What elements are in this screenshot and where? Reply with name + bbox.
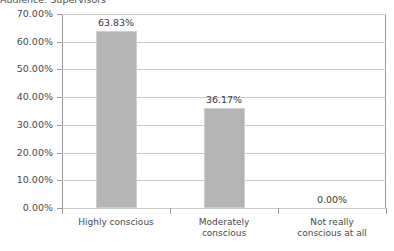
y-axis-tick (57, 180, 62, 181)
y-axis-tick-label: 10.00% (0, 175, 53, 185)
x-axis-tick (386, 208, 387, 214)
y-axis-tick (57, 153, 62, 154)
x-axis-category-label: Highly conscious (62, 217, 170, 228)
y-axis-tick (57, 125, 62, 126)
y-axis-tick-label: 30.00% (0, 120, 53, 130)
y-axis-tick-label: 0.00% (0, 203, 53, 213)
y-axis-tick-label: 20.00% (0, 148, 53, 158)
plot-right-border (385, 14, 386, 208)
y-axis-tick (57, 69, 62, 70)
gridline (62, 208, 386, 209)
x-axis-tick (62, 208, 63, 214)
x-axis-tick (170, 208, 171, 214)
gridline (62, 14, 386, 15)
y-axis-tick-label: 50.00% (0, 64, 53, 74)
x-axis-category-label-line: Moderately (170, 217, 278, 228)
y-axis-tick-label: 70.00% (0, 9, 53, 19)
y-axis-tick (57, 97, 62, 98)
x-axis-category-label: Not reallyconscious at all (278, 217, 386, 239)
y-axis-tick-label: 40.00% (0, 92, 53, 102)
chart-title: Audience: Supervisors (0, 0, 300, 7)
x-axis-category-label-line: Highly conscious (62, 217, 170, 228)
bar-chart: Audience: Supervisors 0.00%10.00%20.00%3… (0, 0, 394, 251)
y-axis-tick-label: 60.00% (0, 37, 53, 47)
x-axis-category-label-line: Not really (278, 217, 386, 228)
x-axis-category-label-line: conscious at all (278, 228, 386, 239)
plot-area (62, 14, 386, 208)
bar-value-label: 63.83% (76, 17, 156, 28)
x-axis-category-label-line: conscious (170, 228, 278, 239)
y-axis-tick (57, 42, 62, 43)
x-axis-category-label: Moderatelyconscious (170, 217, 278, 239)
x-axis-tick (278, 208, 279, 214)
bar-value-label: 36.17% (184, 94, 264, 105)
bar (96, 31, 137, 208)
y-axis-tick (57, 14, 62, 15)
bar (204, 108, 245, 208)
bar-value-label: 0.00% (292, 194, 372, 205)
